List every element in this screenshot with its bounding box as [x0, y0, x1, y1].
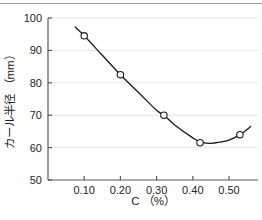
x-tick-label: 0.20	[110, 184, 131, 196]
y-tick-label: 70	[30, 109, 42, 121]
x-axis-title: C （%）	[131, 195, 175, 207]
y-axis-tick-labels: 5060708090100	[24, 12, 42, 186]
data-point-marker	[237, 131, 243, 137]
y-axis-title: カール半径 （mm）	[3, 49, 16, 148]
x-tick-label: 0.40	[182, 184, 203, 196]
data-point-marker	[117, 72, 123, 78]
chart-figure: 5060708090100 0.100.200.300.400.50 C （%）…	[0, 0, 262, 220]
header-divider	[0, 3, 262, 4]
data-point-marker	[161, 112, 167, 118]
x-tick-label: 0.50	[218, 184, 239, 196]
data-point-marker	[197, 140, 203, 146]
y-tick-label: 50	[30, 174, 42, 186]
curl-radius-vs-carbon-chart: 5060708090100 0.100.200.300.400.50 C （%）…	[0, 0, 262, 220]
data-curve	[75, 27, 251, 143]
x-tick-label: 0.10	[73, 184, 94, 196]
axes	[48, 18, 258, 180]
gridlines	[48, 18, 258, 148]
y-tick-label: 60	[30, 142, 42, 154]
y-tick-label: 100	[24, 12, 42, 24]
data-point-markers	[81, 33, 243, 146]
y-tick-label: 90	[30, 44, 42, 56]
y-tick-label: 80	[30, 77, 42, 89]
data-point-marker	[81, 33, 87, 39]
